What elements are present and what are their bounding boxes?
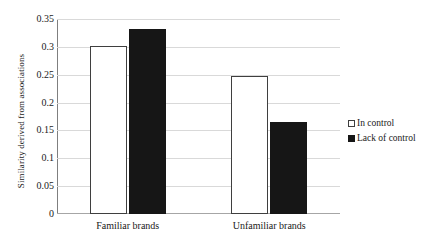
y-tick-label: 0.15: [20, 125, 54, 135]
gridline: [57, 19, 340, 20]
y-tick-label: 0.1: [20, 153, 54, 163]
legend-item-in-control: In control: [348, 117, 416, 130]
y-tick-label: 0.35: [20, 14, 54, 24]
legend-swatch-icon: [348, 120, 355, 127]
bar-in-control: [90, 46, 127, 214]
bar-lack-of-control: [129, 29, 166, 214]
bar-in-control: [231, 76, 268, 214]
y-tick-label: 0.2: [20, 98, 54, 108]
legend-item-label: In control: [357, 117, 394, 130]
legend-item-label: Lack of control: [357, 132, 416, 145]
legend-swatch-icon: [348, 135, 355, 142]
x-tick-label: Unfamiliar brands: [199, 220, 341, 231]
bar-lack-of-control: [270, 122, 307, 214]
legend-item-lack-of-control: Lack of control: [348, 132, 416, 145]
legend: In control Lack of control: [348, 117, 416, 147]
y-tick-label: 0.25: [20, 70, 54, 80]
y-tick-label: 0.05: [20, 181, 54, 191]
y-tick-label: 0: [20, 209, 54, 219]
x-tick-label: Familiar brands: [57, 220, 199, 231]
plot-area: [57, 19, 340, 214]
y-tick-label: 0.3: [20, 42, 54, 52]
bar-chart: Similarity derived from associations 00.…: [0, 0, 435, 246]
y-axis-line: [57, 19, 58, 214]
